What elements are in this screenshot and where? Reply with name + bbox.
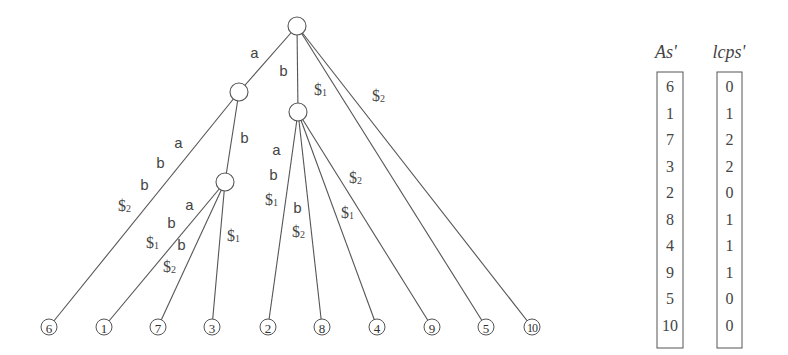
leaf-node-8: 8 bbox=[314, 319, 330, 336]
array-cell: 0 bbox=[726, 184, 734, 201]
array-cell: 1 bbox=[726, 211, 734, 228]
leaf-node-7: 7 bbox=[150, 319, 166, 336]
array-cell: 1 bbox=[726, 237, 734, 254]
edge-label: $2 bbox=[163, 258, 176, 275]
edge-label: a bbox=[250, 46, 259, 63]
array-cell: 2 bbox=[726, 158, 734, 175]
lcp-array-lcps: lcps' 0122011100 bbox=[713, 42, 747, 348]
edge-label: b bbox=[156, 156, 165, 173]
svg-text:8: 8 bbox=[319, 321, 326, 336]
edge-label: $1 bbox=[146, 234, 159, 251]
svg-text:10: 10 bbox=[527, 321, 538, 335]
edge-label: $1 bbox=[227, 227, 240, 244]
as-values: 61732849510 bbox=[662, 78, 678, 334]
edge-label: a bbox=[185, 198, 194, 215]
suffix-tree-diagram: ab$1$2abb$2bab$1b$2$1ab$1b$2$2$1 6173284… bbox=[0, 0, 788, 355]
svg-text:4: 4 bbox=[374, 321, 381, 336]
edge-label: $1 bbox=[314, 81, 327, 98]
edge-label: b bbox=[140, 178, 149, 195]
internal-node bbox=[216, 173, 234, 191]
tree-edge bbox=[297, 26, 532, 327]
suffix-array-as: As' 61732849510 bbox=[654, 42, 683, 348]
svg-text:6: 6 bbox=[46, 321, 53, 336]
edge-label: b bbox=[167, 216, 176, 233]
array-cell: 2 bbox=[726, 131, 734, 148]
tree-edge bbox=[297, 26, 486, 327]
leaf-node-3: 3 bbox=[204, 319, 220, 336]
leaf-node-1: 1 bbox=[96, 319, 112, 336]
edge-label: $2 bbox=[292, 223, 305, 240]
leaf-node-4: 4 bbox=[369, 319, 385, 336]
edge-label: $1 bbox=[341, 204, 354, 221]
edge-label: b bbox=[293, 201, 302, 218]
leaf-node-6: 6 bbox=[41, 319, 57, 336]
edge-label: b bbox=[177, 238, 186, 255]
array-cell: 4 bbox=[666, 237, 674, 254]
edge-label: $1 bbox=[265, 191, 278, 208]
svg-text:5: 5 bbox=[483, 321, 490, 336]
svg-text:3: 3 bbox=[209, 321, 216, 336]
array-cell: 7 bbox=[666, 131, 674, 148]
edge-label: b bbox=[240, 131, 249, 148]
lcps-header: lcps' bbox=[713, 42, 747, 62]
leaf-node-10: 10 bbox=[524, 319, 540, 335]
internal-node bbox=[230, 83, 248, 101]
edge-label: b bbox=[269, 168, 278, 185]
tree-edge bbox=[49, 92, 239, 327]
lcps-values: 0122011100 bbox=[726, 78, 734, 334]
array-cell: 0 bbox=[726, 290, 734, 307]
edge-label: a bbox=[174, 136, 183, 153]
tree-edge bbox=[212, 182, 225, 327]
tree-edge bbox=[225, 92, 239, 182]
array-cell: 6 bbox=[666, 78, 674, 95]
internal-node bbox=[289, 103, 307, 121]
array-cell: 0 bbox=[726, 78, 734, 95]
edge-label: b bbox=[279, 64, 288, 81]
leaf-node-2: 2 bbox=[260, 319, 276, 336]
leaf-node-9: 9 bbox=[424, 319, 440, 336]
array-cell: 8 bbox=[666, 211, 674, 228]
edge-label: a bbox=[272, 143, 281, 160]
leaf-node-5: 5 bbox=[478, 319, 494, 336]
edge-label: $2 bbox=[372, 87, 385, 104]
svg-text:9: 9 bbox=[429, 321, 436, 336]
svg-text:7: 7 bbox=[155, 321, 162, 336]
internal-node bbox=[288, 17, 306, 35]
array-cell: 1 bbox=[726, 105, 734, 122]
tree-edge bbox=[297, 26, 298, 112]
array-cell: 1 bbox=[726, 264, 734, 281]
svg-text:1: 1 bbox=[101, 321, 108, 336]
array-cell: 5 bbox=[666, 290, 674, 307]
array-cell: 0 bbox=[726, 317, 734, 334]
edge-label: $2 bbox=[118, 197, 131, 214]
array-cell: 1 bbox=[666, 105, 674, 122]
array-cell: 9 bbox=[666, 264, 674, 281]
tree-leaves: 61732849510 bbox=[41, 319, 540, 336]
array-cell: 2 bbox=[666, 184, 674, 201]
as-header: As' bbox=[654, 42, 678, 62]
svg-text:2: 2 bbox=[265, 321, 272, 336]
tree-edges bbox=[49, 26, 532, 327]
tree-edge bbox=[239, 26, 297, 92]
array-cell: 10 bbox=[662, 317, 678, 334]
edge-label: $2 bbox=[349, 169, 362, 186]
array-cell: 3 bbox=[666, 158, 674, 175]
